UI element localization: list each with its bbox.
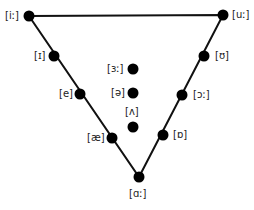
vowel-dot [49,51,60,62]
vowel-label: [ɔː] [193,89,210,101]
vowel-label: [ɑː] [129,188,147,200]
vowel-dot [218,10,229,21]
vowel-label: [e] [59,88,73,100]
vowel-label: [ʊ] [215,50,229,62]
vowel-triangle-diagram [0,0,254,210]
vowel-dot [199,51,210,62]
vowel-dot [177,90,188,101]
vowel-dot [75,89,86,100]
vowel-label: [ɒ] [173,129,187,141]
vowel-dot [134,172,145,183]
vowel-label: [ɪ] [34,50,46,62]
vowel-label: [æ] [87,132,105,144]
vowel-dot [107,133,118,144]
vowel-label: [ə] [111,87,125,99]
vowel-dot [24,11,35,22]
vowel-label: [ʌ] [125,106,139,118]
vowel-dot [128,122,139,133]
vowel-label: [ɜː] [107,63,124,75]
vowel-dot [128,64,139,75]
vowel-dot [158,130,169,141]
vowel-label: [uː] [232,9,250,21]
vowel-dot [128,88,139,99]
vowel-label: [iː] [5,10,19,22]
